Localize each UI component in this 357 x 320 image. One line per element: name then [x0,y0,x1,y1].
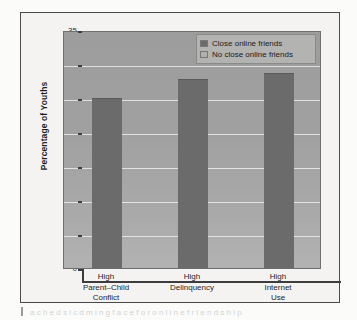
x-label-2: High Internet Use [235,272,321,304]
gridline-30 [64,66,320,67]
legend-label-1: No close online friends [212,50,293,59]
chart-legend: Close online friendsNo close online frie… [196,34,316,64]
y-tick-mark-15 [78,167,82,169]
x-label-1: High Delinquency [149,272,235,293]
figure-container: Percentage of Youths 05101520253035 High… [20,12,340,303]
y-tick-mark-20 [78,133,82,135]
y-tick-mark-35 [78,31,82,33]
caption-strip: a c h e d s i c d m i n g f a c e f o r … [0,306,357,320]
y-tick-mark-25 [78,99,82,101]
x-label-0: High Parent–Child Conflict [63,272,149,304]
bar-2 [264,73,294,268]
legend-swatch-icon-1 [200,51,208,58]
y-axis-title: Percentage of Youths [39,51,49,201]
legend-entry-0: Close online friends [200,38,311,49]
legend-entry-1: No close online friends [200,49,311,60]
plot-area [63,31,321,269]
scanned-page: Percentage of Youths 05101520253035 High… [0,0,357,320]
y-tick-mark-10 [78,201,82,203]
y-tick-mark-0 [78,269,82,271]
legend-swatch-icon-0 [200,40,208,47]
bar-1 [178,79,208,268]
caption-text: a c h e d s i c d m i n g f a c e f o r … [30,308,355,317]
legend-label-0: Close online friends [212,39,282,48]
y-tick-mark-5 [78,235,82,237]
y-tick-mark-30 [78,65,82,67]
bar-0 [92,98,122,268]
caption-rule [21,307,23,316]
